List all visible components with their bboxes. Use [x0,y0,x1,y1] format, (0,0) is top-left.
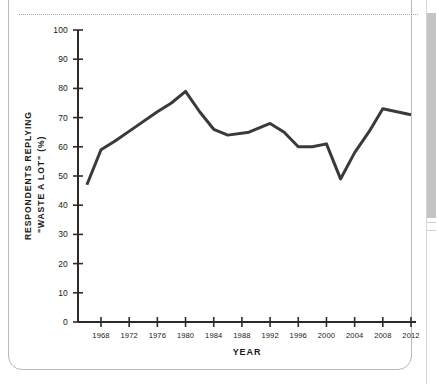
y-tick-label: 20 [58,259,68,269]
y-tick-label: 70 [58,113,68,123]
x-axis-ticks: 1968197219761980198419881992199620002004… [92,317,419,340]
x-tick-label: 1996 [290,331,307,340]
y-axis-title-line2: "WASTE A LOT" (%) [36,136,46,233]
y-tick-label: 40 [58,200,68,210]
scrollbar-divider-upper [427,222,436,223]
y-tick-label: 0 [63,317,68,327]
x-tick-label: 2000 [318,331,335,340]
chart-svg: 1009080706050403020100 19681972197619801… [0,0,437,384]
x-tick-label: 1980 [177,331,194,340]
y-tick-label: 50 [58,171,68,181]
data-series-line [87,91,411,184]
y-tick-label: 80 [58,83,68,93]
x-tick-label: 1976 [149,331,166,340]
x-tick-label: 1972 [121,331,138,340]
y-tick-label: 60 [58,142,68,152]
scrollbar-divider-lower [427,230,436,231]
x-tick-label: 2004 [346,331,363,340]
x-axis-title: YEAR [233,347,262,357]
x-tick-label: 1968 [92,331,109,340]
x-tick-label: 1992 [261,331,278,340]
x-tick-label: 1988 [233,331,250,340]
y-axis-title-line1: RESPONDENTS REPLYING [23,111,33,240]
y-tick-label: 10 [58,288,68,298]
vertical-scrollbar-thumb[interactable] [427,13,436,218]
x-tick-label: 2008 [374,331,391,340]
vertical-scrollbar-track[interactable] [426,0,437,384]
y-tick-label: 100 [53,25,68,35]
figure-page: 1009080706050403020100 19681972197619801… [0,0,437,384]
line-chart: 1009080706050403020100 19681972197619801… [0,0,437,384]
y-tick-label: 90 [58,54,68,64]
x-tick-label: 1984 [205,331,222,340]
y-tick-label: 30 [58,229,68,239]
x-tick-label: 2012 [402,331,419,340]
